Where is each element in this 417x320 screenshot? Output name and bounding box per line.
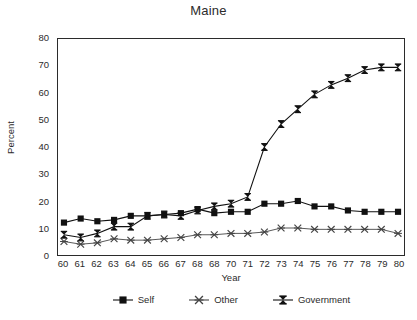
- data-point-marker: [311, 203, 317, 209]
- data-point-marker: [228, 209, 234, 215]
- x-tick-label: 68: [205, 259, 223, 269]
- data-point-marker: [378, 209, 384, 215]
- data-point-marker: [177, 234, 185, 241]
- data-point-marker: [328, 203, 334, 209]
- x-tick-label: 66: [155, 259, 173, 269]
- bowtie-icon: [272, 294, 294, 306]
- chart-figure: Maine 01020304050607080 Percent 60616263…: [0, 0, 417, 320]
- data-point-marker: [261, 201, 267, 207]
- data-point-marker: [210, 231, 218, 238]
- data-point-marker: [128, 213, 134, 219]
- legend-label: Self: [138, 295, 154, 305]
- x-tick-label: 64: [121, 259, 139, 269]
- data-point-marker: [277, 225, 285, 232]
- data-point-marker: [211, 210, 217, 216]
- data-point-marker: [78, 215, 84, 221]
- x-tick-label: 74: [289, 259, 307, 269]
- x-axis-title: Year: [57, 272, 405, 283]
- y-tick-label: 60: [38, 88, 49, 98]
- x-tick-label: 70: [222, 259, 240, 269]
- y-axis: 01020304050607080: [20, 38, 53, 256]
- x-tick-label: 71: [239, 259, 257, 269]
- data-point-marker: [245, 209, 251, 215]
- data-point-marker: [194, 231, 202, 238]
- data-point-marker: [261, 229, 269, 236]
- data-point-marker: [119, 296, 126, 303]
- data-point-marker: [195, 296, 204, 304]
- x-tick-label: 78: [356, 259, 374, 269]
- x-tick-label: 63: [104, 259, 122, 269]
- chart-title: Maine: [0, 3, 417, 18]
- data-point-marker: [295, 198, 301, 204]
- data-point-marker: [160, 235, 168, 242]
- data-point-marker: [395, 209, 401, 215]
- data-point-marker: [60, 238, 68, 245]
- legend-item-government[interactable]: Government: [272, 294, 350, 306]
- x-tick-label: 61: [71, 259, 89, 269]
- data-point-marker: [362, 209, 368, 215]
- data-point-marker: [377, 226, 385, 233]
- x-tick-label: 76: [323, 259, 341, 269]
- y-tick-label: 20: [38, 197, 49, 207]
- data-point-marker: [327, 226, 335, 233]
- data-point-marker: [144, 237, 152, 244]
- y-tick-label: 30: [38, 169, 49, 179]
- data-point-marker: [227, 230, 235, 237]
- legend-item-other[interactable]: Other: [188, 294, 238, 306]
- legend-label: Other: [214, 295, 238, 305]
- data-point-marker: [94, 218, 100, 224]
- data-point-marker: [278, 201, 284, 207]
- x-cross-icon: [188, 294, 210, 306]
- x-axis: 6061626364656667686870717273747576777879…: [57, 259, 405, 272]
- data-point-marker: [110, 235, 118, 242]
- y-tick-label: 50: [38, 115, 49, 125]
- x-tick-label: 73: [272, 259, 290, 269]
- data-point-marker: [311, 226, 319, 233]
- x-tick-label: 67: [172, 259, 190, 269]
- x-tick-label: 68: [188, 259, 206, 269]
- filled-square-icon: [112, 294, 134, 306]
- x-tick-label: 62: [88, 259, 106, 269]
- data-point-marker: [345, 207, 351, 213]
- data-point-marker: [93, 239, 101, 246]
- data-point-marker: [61, 220, 67, 226]
- y-tick-label: 70: [38, 60, 49, 70]
- y-tick-label: 80: [38, 33, 49, 43]
- x-tick-label: 60: [54, 259, 72, 269]
- x-tick-label: 80: [390, 259, 408, 269]
- x-tick-label: 79: [373, 259, 391, 269]
- x-tick-label: 72: [256, 259, 274, 269]
- legend-item-self[interactable]: Self: [112, 294, 154, 306]
- data-point-marker: [394, 230, 402, 237]
- x-tick-label: 65: [138, 259, 156, 269]
- x-tick-label: 77: [340, 259, 358, 269]
- chart-legend: SelfOtherGovernment: [57, 292, 405, 308]
- data-point-marker: [127, 237, 135, 244]
- data-point-marker: [244, 230, 252, 237]
- plot-area: [57, 38, 405, 256]
- data-point-marker: [361, 226, 369, 233]
- x-tick-label: 75: [306, 259, 324, 269]
- data-point-marker: [77, 241, 85, 248]
- data-point-marker: [344, 226, 352, 233]
- data-point-marker: [111, 217, 117, 223]
- y-axis-title: Percent: [5, 106, 16, 170]
- y-tick-label: 40: [38, 142, 49, 152]
- y-tick-label: 10: [38, 224, 49, 234]
- data-point-marker: [294, 225, 302, 232]
- legend-label: Government: [298, 295, 350, 305]
- y-tick-label: 0: [44, 251, 49, 261]
- plot-svg: [58, 39, 404, 255]
